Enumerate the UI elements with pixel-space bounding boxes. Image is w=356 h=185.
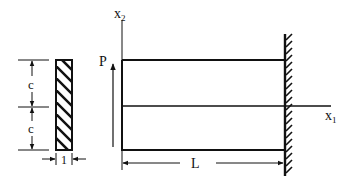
cross-section: c c 1 xyxy=(18,14,90,184)
label-length-l: L xyxy=(191,156,200,171)
label-x2: x2 xyxy=(114,6,126,23)
beam: x2 x1 P L xyxy=(99,6,337,171)
depth-extension-lines xyxy=(18,60,49,150)
dimension-length xyxy=(122,152,283,170)
label-c-bottom: c xyxy=(28,121,34,136)
fixed-wall-support xyxy=(285,34,292,176)
label-c-top: c xyxy=(28,77,34,92)
wall-hatch xyxy=(286,34,292,173)
label-x1: x1 xyxy=(325,108,337,125)
label-load-p: P xyxy=(99,54,107,69)
diagram-canvas: c c 1 x2 x1 P L xyxy=(0,0,356,185)
label-thickness: 1 xyxy=(61,153,67,167)
